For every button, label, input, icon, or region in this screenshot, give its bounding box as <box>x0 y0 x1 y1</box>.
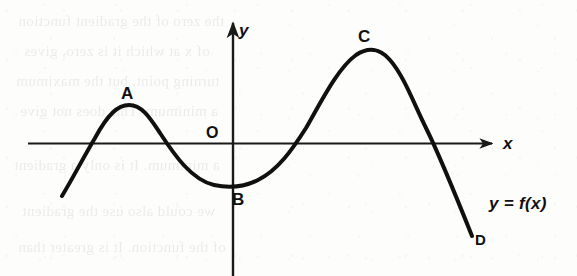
point-label-b: B <box>232 191 244 208</box>
point-label-d: D <box>475 232 486 247</box>
origin-label: O <box>206 125 218 141</box>
function-equation-label: y = f(x) <box>489 195 547 212</box>
y-axis-label: y <box>239 22 248 39</box>
x-axis-label: x <box>503 135 512 152</box>
figure-container: the zero of the gradient function of x a… <box>0 0 577 276</box>
graph-canvas <box>0 0 577 276</box>
point-label-a: A <box>121 85 133 102</box>
point-label-c: C <box>358 28 370 45</box>
